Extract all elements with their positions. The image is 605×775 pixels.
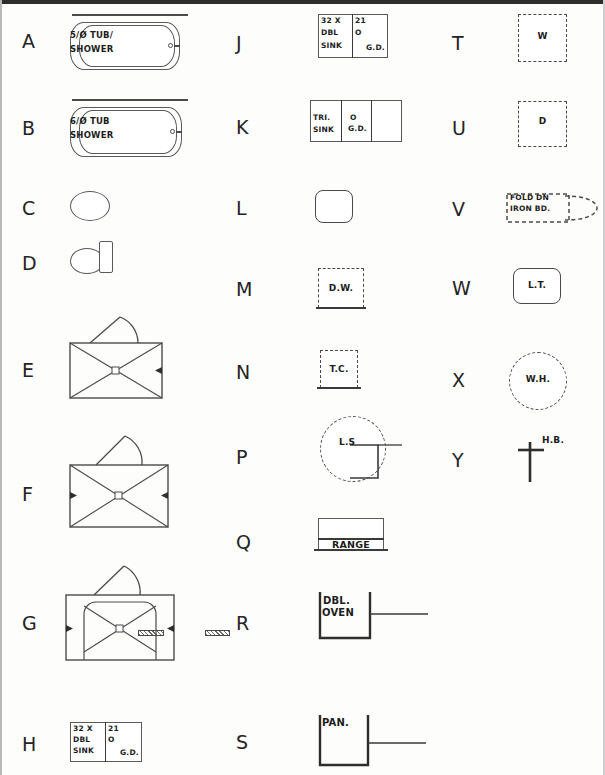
cabinet-face-line [316, 307, 366, 309]
key-letter-d: D [22, 254, 37, 273]
water-heater-label: W.H. [509, 375, 567, 384]
key-letter-r: R [236, 614, 250, 633]
sink-label-sink: SINK [313, 126, 334, 134]
key-letter-y: Y [452, 451, 464, 470]
sink-label-size-b: 21 [108, 725, 119, 733]
sink-label-dbl: DBL [73, 736, 90, 744]
ironing-board-label-line2: IRON BD. [510, 205, 550, 213]
sheet-top-border [0, 0, 605, 4]
closet-door-swing-svg [64, 562, 179, 667]
key-letter-u: U [452, 119, 466, 138]
closet-door-swing-svg [68, 432, 173, 532]
dryer-label: D [518, 117, 567, 126]
oven-label-line1: DBL. [323, 596, 350, 607]
key-letter-b: B [22, 119, 36, 138]
ironing-board-label-line1: FOLD DN [510, 194, 549, 202]
sink-label-drain: O [350, 114, 357, 122]
key-letter-x: X [452, 371, 466, 390]
key-letter-v: V [452, 200, 466, 219]
laundry-tub-label: L.T. [513, 281, 561, 290]
tub-faucet-icon [176, 131, 182, 133]
hose-bib-label: H.B. [542, 436, 564, 445]
legend-sheet: A 5/Ø TUB/ SHOWER B 6/Ø TUB SHOWER C D [0, 0, 605, 775]
closet-door-swing-svg [68, 315, 168, 400]
pantry-label: PAN. [322, 718, 349, 729]
single-sink-icon [315, 190, 353, 223]
sink-divider [352, 14, 353, 58]
corner-cabinet-svg [350, 440, 410, 490]
trash-compactor-label: T.C. [320, 365, 358, 374]
key-letter-q: Q [236, 533, 251, 552]
sink-label-drain: O [355, 29, 362, 37]
sink-label-gd: G.D. [348, 125, 367, 133]
key-letter-e: E [22, 361, 35, 380]
tub-drain-icon [170, 129, 175, 134]
sink-label-dbl: DBL [321, 29, 338, 37]
sink-label-drain: O [108, 736, 115, 744]
sink-label-tri: TRI. [313, 114, 330, 122]
key-letter-p: P [236, 448, 248, 467]
sink-label-size-b: 21 [355, 17, 366, 25]
oven-label-line2: OVEN [322, 608, 354, 619]
key-letter-k: K [236, 118, 249, 137]
cabinet-face-line [317, 387, 361, 389]
sink-divider [105, 722, 106, 762]
key-letter-h: H [22, 735, 37, 754]
oval-lavatory-icon [70, 191, 110, 221]
key-letter-t: T [452, 34, 464, 53]
sink-label-sink: SINK [321, 42, 342, 50]
sink-divider-2 [371, 100, 372, 142]
key-letter-n: N [236, 363, 251, 382]
key-letter-f: F [22, 485, 33, 504]
sink-label-sink: SINK [73, 747, 94, 755]
washer-label: W [518, 32, 567, 41]
sheet-left-border [0, 0, 2, 775]
sink-label-size-a: 32 X [73, 725, 93, 733]
wall-line [72, 14, 188, 16]
sink-label-gd: G.D. [120, 749, 139, 757]
range-label: RANGE [318, 540, 384, 550]
key-letter-s: S [236, 733, 249, 752]
sink-divider-1 [341, 100, 342, 142]
key-letter-l: L [236, 199, 247, 218]
key-letter-g: G [22, 614, 37, 633]
sink-label-size-a: 32 X [321, 17, 341, 25]
key-letter-m: M [236, 280, 253, 299]
wall-hatch-right [205, 630, 230, 636]
wall-line [72, 99, 188, 101]
sink-label-gd: G.D. [366, 44, 385, 52]
key-letter-c: C [22, 199, 36, 218]
tub-drain-icon [168, 43, 173, 48]
toilet-tank-icon [99, 241, 113, 273]
key-letter-w: W [452, 279, 471, 298]
key-letter-a: A [22, 32, 36, 51]
tub-faucet-icon [174, 45, 180, 47]
lazy-susan-label: L.S [339, 438, 355, 447]
key-letter-j: J [236, 34, 242, 53]
dishwasher-label: D.W. [318, 284, 364, 293]
